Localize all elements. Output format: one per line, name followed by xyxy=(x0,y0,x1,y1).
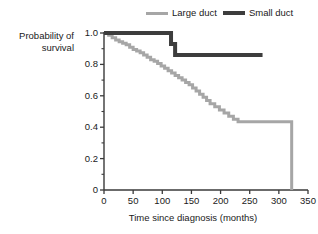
plot-area xyxy=(0,0,318,234)
survival-curve-chart: Large duct Small duct Probability of sur… xyxy=(0,0,318,234)
